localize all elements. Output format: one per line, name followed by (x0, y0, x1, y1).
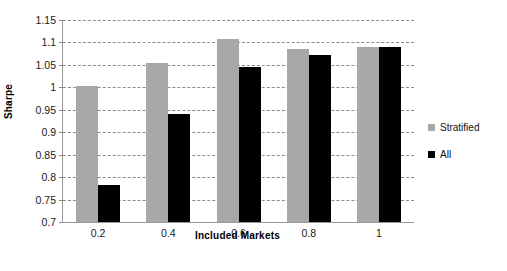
bar-group (357, 20, 401, 222)
y-axis-tick (59, 132, 63, 133)
plot-area: 1.151.11.0510.950.90.850.80.750.70.20.40… (62, 20, 414, 223)
bar-chart: Sharpe 1.151.11.0510.950.90.850.80.750.7… (0, 0, 507, 271)
bar-stratified-0.4[interactable] (146, 63, 168, 222)
y-axis-tick-label: 1.05 (36, 59, 56, 71)
y-axis-tick-label: 0.85 (36, 149, 56, 161)
y-axis-tick-label: 1 (50, 81, 56, 93)
y-axis-tick (59, 110, 63, 111)
bar-group (217, 20, 261, 222)
bar-stratified-0.8[interactable] (287, 49, 309, 222)
legend-swatch-icon (428, 151, 435, 158)
bar-stratified-0.6[interactable] (217, 39, 239, 222)
y-axis-tick-label: 0.8 (41, 171, 56, 183)
y-axis-tick-label: 0.7 (41, 216, 56, 228)
y-axis-tick-label: 1.15 (36, 14, 56, 26)
chart-legend: StratifiedAll (428, 122, 503, 176)
y-axis-tick-label: 0.75 (36, 194, 56, 206)
y-axis-tick (59, 177, 63, 178)
y-axis-tick (59, 222, 63, 223)
y-axis-tick-label: 1.1 (41, 36, 56, 48)
legend-label: All (440, 149, 451, 160)
y-axis-tick (59, 65, 63, 66)
y-axis-tick (59, 87, 63, 88)
bar-group (76, 20, 120, 222)
y-axis-tick (59, 20, 63, 21)
y-axis-title: Sharpe (3, 72, 14, 132)
legend-item-stratified[interactable]: Stratified (428, 122, 503, 133)
legend-swatch-icon (428, 124, 435, 131)
y-axis-tick-label: 0.95 (36, 104, 56, 116)
legend-item-all[interactable]: All (428, 149, 503, 160)
bar-all-0.8[interactable] (309, 55, 331, 222)
y-axis-tick (59, 200, 63, 201)
bar-stratified-1[interactable] (357, 47, 379, 222)
y-axis-tick (59, 42, 63, 43)
bar-all-0.6[interactable] (239, 67, 261, 222)
x-axis-title: Included Markets (62, 230, 413, 241)
y-axis-tick (59, 155, 63, 156)
bar-all-0.2[interactable] (98, 185, 120, 222)
bar-all-1[interactable] (379, 47, 401, 222)
bar-group (146, 20, 190, 222)
legend-label: Stratified (440, 122, 479, 133)
bar-stratified-0.2[interactable] (76, 86, 98, 222)
bar-all-0.4[interactable] (168, 114, 190, 222)
y-axis-tick-label: 0.9 (41, 126, 56, 138)
bar-group (287, 20, 331, 222)
